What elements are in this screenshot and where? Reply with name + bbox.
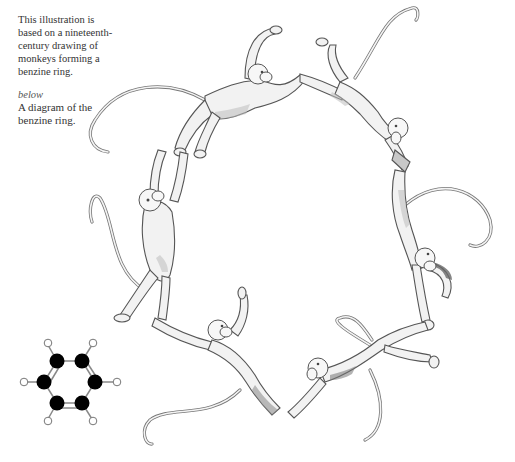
monkey-bottom-right: [288, 322, 439, 418]
carbon-atom: [88, 375, 103, 390]
carbon-atoms: [37, 354, 103, 411]
carbon-atom: [75, 354, 90, 369]
carbon-atom: [37, 375, 52, 390]
monkey-ring-illustration: [0, 0, 515, 462]
hydrogen-atom: [44, 339, 52, 347]
hydrogen-atom: [89, 417, 97, 425]
monkey-left: [114, 150, 188, 322]
carbon-atom: [50, 354, 65, 369]
monkey-top-left: [174, 26, 305, 158]
hydrogen-atom: [44, 417, 52, 425]
benzene-ring-diagram: [20, 339, 121, 425]
monkey-top-right: [300, 38, 410, 172]
carbon-atom: [75, 396, 90, 411]
hydrogen-atom: [113, 378, 121, 386]
hydrogen-atom: [20, 378, 28, 386]
carbon-atom: [50, 396, 65, 411]
hydrogen-atom: [89, 339, 97, 347]
monkey-bottom-left: [152, 287, 280, 415]
